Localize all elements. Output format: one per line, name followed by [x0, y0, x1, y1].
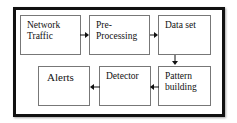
node-pattern-building: Pattern building: [158, 66, 211, 106]
arrow-down-icon: [171, 55, 179, 66]
node-label-line2: Traffic: [27, 31, 80, 42]
node-label-line1: Pattern: [165, 71, 210, 82]
arrow-right-icon: [150, 31, 159, 39]
node-network-traffic: Network Traffic: [20, 15, 81, 55]
node-label-line2: Processing: [96, 31, 149, 42]
node-data-set: Data set: [158, 15, 211, 55]
node-label-line1: Alerts: [47, 71, 89, 84]
arrow-left-icon: [90, 83, 100, 91]
arrow-right-icon: [80, 31, 90, 39]
arrow-left-icon: [150, 83, 159, 91]
node-alerts: Alerts: [38, 66, 90, 106]
node-label-line1: Detector: [106, 71, 150, 82]
node-label-line2: building: [165, 82, 210, 93]
node-label-line1: Pre-: [96, 20, 149, 31]
node-detector: Detector: [99, 66, 151, 106]
node-label-line1: Data set: [165, 20, 210, 31]
node-label-line1: Network: [27, 20, 80, 31]
node-pre-processing: Pre- Processing: [89, 15, 150, 55]
